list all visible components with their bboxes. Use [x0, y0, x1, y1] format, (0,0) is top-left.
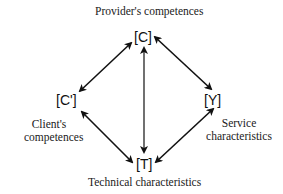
edge-c-cprime [80, 43, 131, 91]
node-client: [C'] [56, 92, 77, 108]
client-label-line2: competences [24, 131, 74, 144]
diagram-canvas: Provider's competences [C] [C'] Client's… [0, 0, 283, 194]
node-technical: [T] [136, 156, 152, 172]
provider-label: Provider's competences [95, 5, 203, 18]
technical-label: Technical characteristics [88, 176, 201, 189]
edge-c-y [155, 37, 211, 89]
node-service: [Y] [204, 92, 221, 108]
edge-cprime-t [82, 112, 132, 162]
service-label-line2: characteristics [204, 130, 274, 143]
node-provider: [C] [134, 29, 152, 45]
client-label-line1: Client's [24, 118, 74, 131]
service-label: Service characteristics [204, 117, 274, 143]
client-label: Client's competences [24, 118, 74, 144]
service-label-line1: Service [204, 117, 274, 130]
